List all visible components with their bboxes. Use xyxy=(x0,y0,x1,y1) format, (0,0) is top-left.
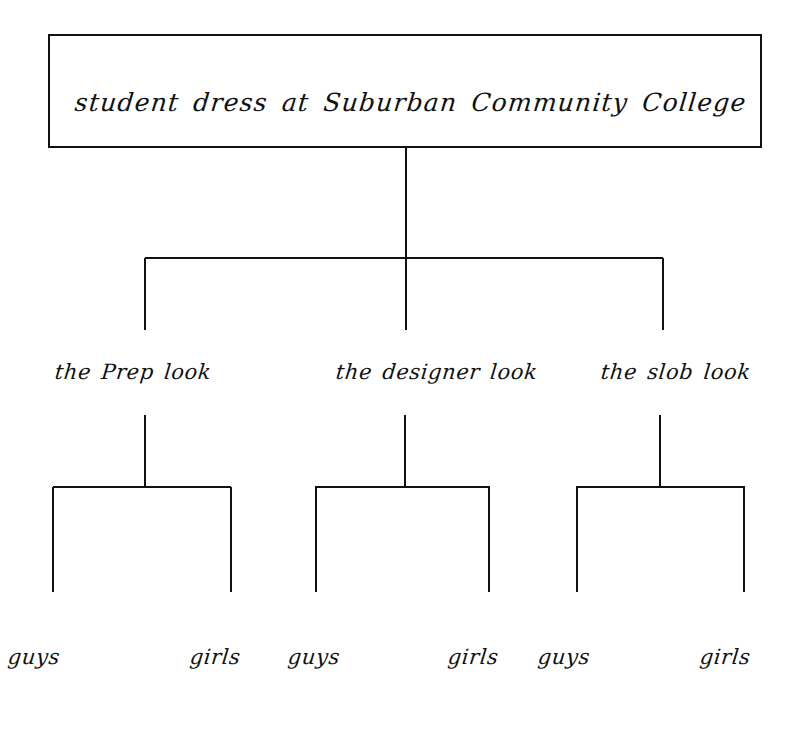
root-node-label: student dress at Suburban Community Coll… xyxy=(73,88,748,117)
leaf-node-label-slob-girls: girls xyxy=(699,645,752,669)
diagram-canvas: student dress at Suburban Community Coll… xyxy=(0,0,803,735)
leaf-node-label-designer-guys: guys xyxy=(287,645,342,669)
leaf-node-label-prep-guys: guys xyxy=(7,645,62,669)
leaf-node-label-prep-girls: girls xyxy=(189,645,242,669)
level2-node-label-prep: the Prep look xyxy=(54,360,213,384)
leaf-node-label-slob-guys: guys xyxy=(537,645,592,669)
level2-node-label-designer: the designer look xyxy=(335,360,539,384)
leaf-node-label-designer-girls: girls xyxy=(447,645,500,669)
level2-node-label-slob: the slob look xyxy=(600,360,752,384)
